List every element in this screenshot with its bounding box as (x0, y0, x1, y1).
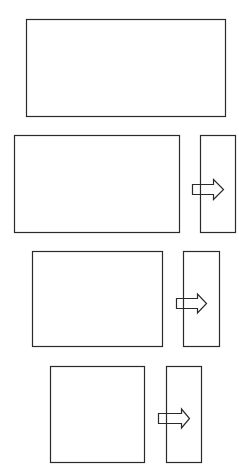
main-panel-rectangle (15, 136, 180, 233)
diagram-group-2 (15, 136, 236, 233)
main-panel-rectangle (33, 252, 163, 347)
diagram-group-4 (51, 367, 202, 463)
main-panel-rectangle (51, 367, 145, 463)
diagram-canvas (0, 0, 239, 466)
right-arrow-icon (159, 409, 190, 428)
main-panel-rectangle (27, 20, 226, 117)
diagram-group-1 (27, 20, 226, 117)
diagram-group-3 (33, 252, 220, 347)
right-arrow-icon (177, 294, 207, 313)
right-arrow-icon (193, 180, 224, 200)
